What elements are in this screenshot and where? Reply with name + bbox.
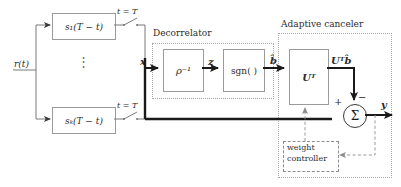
block-diagram-canvas: Decorrelator Adaptive canceler s₁(T − t)… [0,0,401,187]
switch-k-contact [136,118,138,120]
switch-k-blade [124,112,137,119]
switch-1-pivot [123,24,125,26]
vector-bus [145,58,332,119]
signal-path-utb [327,68,354,100]
switch-1-contact [136,24,138,26]
feedback-path-output-to-weight-controller [340,115,375,155]
switch-1-blade [124,18,137,25]
switch-1-wires [114,18,145,63]
connector-layer [0,0,401,187]
input-fanout-wires [13,25,50,119]
switch-k-wires [114,112,145,120]
switch-1-to-bus [137,25,145,63]
switch-k-pivot [123,118,125,120]
